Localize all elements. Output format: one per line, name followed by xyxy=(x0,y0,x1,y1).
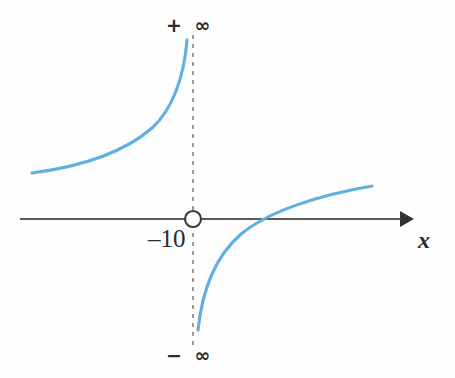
x-axis-arrowhead xyxy=(400,211,414,227)
plot-canvas xyxy=(0,0,455,378)
curve-right-branch xyxy=(198,186,372,330)
plus-infinity-label: + ∞ xyxy=(166,16,213,35)
minus-infinity-label: − ∞ xyxy=(166,346,213,365)
open-point-marker xyxy=(185,211,201,227)
asymptote-value-label: –10 xyxy=(148,226,186,251)
x-axis-label: x xyxy=(418,228,430,252)
curve-left-branch xyxy=(32,40,187,173)
function-graph-figure: + ∞ − ∞ –10 x xyxy=(0,0,455,378)
